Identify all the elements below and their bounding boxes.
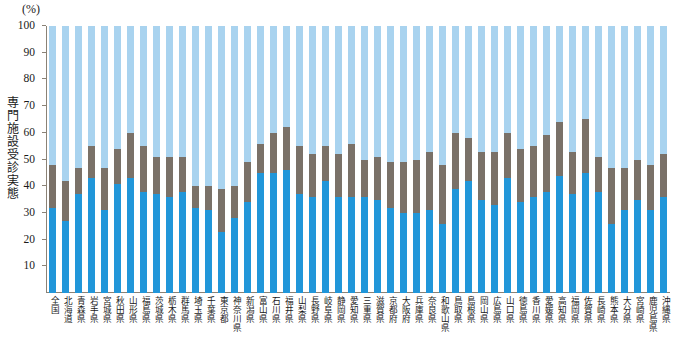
bar[interactable] — [543, 26, 550, 293]
bar[interactable] — [49, 26, 56, 293]
bar-segment-series3 — [608, 26, 615, 168]
bar[interactable] — [361, 26, 368, 293]
bar[interactable] — [387, 26, 394, 293]
bar[interactable] — [595, 26, 602, 293]
bar[interactable] — [608, 26, 615, 293]
bar-segment-series3 — [569, 26, 576, 151]
bar[interactable] — [231, 26, 238, 293]
bar-segment-series2 — [49, 165, 56, 208]
category-label: 宮崎県 — [632, 296, 643, 323]
bar-segment-series1 — [439, 224, 446, 293]
bar-segment-series2 — [374, 157, 381, 200]
bar-segment-series2 — [140, 146, 147, 191]
bar-segment-series1 — [556, 176, 563, 293]
bar[interactable] — [374, 26, 381, 293]
bar[interactable] — [556, 26, 563, 293]
bar-segment-series1 — [335, 197, 342, 293]
bar[interactable] — [257, 26, 264, 293]
bar-segment-series2 — [335, 154, 342, 197]
bar[interactable] — [153, 26, 160, 293]
bar[interactable] — [413, 26, 420, 293]
bar[interactable] — [296, 26, 303, 293]
bar[interactable] — [140, 26, 147, 293]
bar[interactable] — [192, 26, 199, 293]
bar-segment-series3 — [621, 26, 628, 168]
y-tick-label: 40 — [24, 179, 36, 191]
bar[interactable] — [530, 26, 537, 293]
bar-segment-series2 — [75, 168, 82, 195]
bar-segment-series2 — [621, 168, 628, 211]
bar-segment-series3 — [127, 26, 134, 133]
bar[interactable] — [660, 26, 667, 293]
category-label: 奈良県 — [424, 296, 435, 323]
bar[interactable] — [426, 26, 433, 293]
bar[interactable] — [452, 26, 459, 293]
bar-segment-series1 — [426, 210, 433, 293]
bar[interactable] — [400, 26, 407, 293]
bar-segment-series1 — [465, 181, 472, 293]
bar[interactable] — [465, 26, 472, 293]
bar-segment-series2 — [439, 165, 446, 224]
bar[interactable] — [647, 26, 654, 293]
bar[interactable] — [62, 26, 69, 293]
bar[interactable] — [517, 26, 524, 293]
bar[interactable] — [309, 26, 316, 293]
bar[interactable] — [504, 26, 511, 293]
y-tick-label: 80 — [24, 72, 36, 84]
category-label: 富山県 — [255, 296, 266, 323]
bar-segment-series1 — [166, 197, 173, 293]
y-tick: 50 — [42, 159, 46, 160]
category-label: 愛知県 — [346, 296, 357, 323]
bar-segment-series2 — [205, 186, 212, 210]
bar[interactable] — [634, 26, 641, 293]
bar[interactable] — [322, 26, 329, 293]
y-tick: 80 — [42, 78, 46, 79]
bar[interactable] — [88, 26, 95, 293]
bar[interactable] — [244, 26, 251, 293]
bar[interactable] — [569, 26, 576, 293]
bar-segment-series1 — [621, 210, 628, 293]
category-label: 兵庫県 — [411, 296, 422, 323]
bar-segment-series2 — [413, 160, 420, 213]
bar[interactable] — [166, 26, 173, 293]
bar[interactable] — [491, 26, 498, 293]
bar-segment-series1 — [413, 213, 420, 293]
bar[interactable] — [439, 26, 446, 293]
bar[interactable] — [205, 26, 212, 293]
bar[interactable] — [621, 26, 628, 293]
bar[interactable] — [218, 26, 225, 293]
category-label: 熊本県 — [606, 296, 617, 323]
bar-segment-series3 — [647, 26, 654, 165]
bar[interactable] — [270, 26, 277, 293]
category-label: 佐賀県 — [580, 296, 591, 323]
bar-segment-series1 — [452, 189, 459, 293]
category-label: 大阪府 — [398, 296, 409, 323]
bar[interactable] — [335, 26, 342, 293]
bar-segment-series3 — [296, 26, 303, 146]
category-label: 鹿児島県 — [645, 296, 656, 332]
bar-segment-series1 — [569, 194, 576, 293]
bar-segment-series2 — [608, 168, 615, 224]
bar[interactable] — [114, 26, 121, 293]
bar[interactable] — [478, 26, 485, 293]
bar-segment-series3 — [660, 26, 667, 154]
category-label: 山口県 — [502, 296, 513, 323]
bar[interactable] — [582, 26, 589, 293]
bar[interactable] — [179, 26, 186, 293]
bar[interactable] — [101, 26, 108, 293]
bar[interactable] — [348, 26, 355, 293]
bar-segment-series1 — [101, 210, 108, 293]
bar-segment-series2 — [270, 133, 277, 173]
category-label: 新潟県 — [242, 296, 253, 323]
category-label: 山形県 — [125, 296, 136, 323]
bar-segment-series2 — [634, 160, 641, 200]
bar[interactable] — [283, 26, 290, 293]
category-label: 島根県 — [463, 296, 474, 323]
category-label: 秋田県 — [112, 296, 123, 323]
bar[interactable] — [127, 26, 134, 293]
bar-segment-series3 — [114, 26, 121, 149]
bar-segment-series3 — [478, 26, 485, 151]
bar-segment-series1 — [49, 208, 56, 293]
y-tick: 30 — [42, 212, 46, 213]
bar[interactable] — [75, 26, 82, 293]
